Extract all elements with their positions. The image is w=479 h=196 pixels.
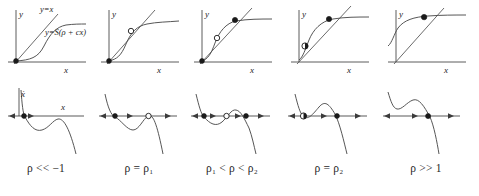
xdot-curve: [21, 90, 76, 154]
panel-top-3: y x: [186, 2, 278, 78]
fixed-point-semistable: [146, 113, 151, 118]
identity-line-label: y=x: [39, 4, 54, 14]
flow-arrow-right: [9, 113, 15, 119]
xdot-curve: [196, 94, 256, 154]
flow-arrow-left: [28, 113, 34, 119]
identity-line: [14, 14, 58, 64]
caption-column-1: ρ << −1: [0, 162, 92, 174]
panel-top-1: y x y=x y=S(ρ + cx): [0, 2, 92, 78]
caption-column-4: ρ = ρ₂: [283, 162, 375, 174]
caption-column-2: ρ = ρ₁: [93, 162, 185, 174]
y-axis-label: y: [204, 9, 209, 19]
flow-arrow-left: [355, 113, 361, 119]
figure-column-2: y x ρ = ρ₁: [93, 0, 185, 196]
fixed-point-stable: [22, 114, 27, 119]
flow-arrow-left: [448, 113, 454, 119]
flow-arrow-right: [289, 113, 295, 119]
x-axis-label: x: [156, 65, 161, 75]
fixed-point-stable: [335, 114, 340, 119]
flow-arrow-right: [100, 113, 106, 119]
panel-top-5: y x: [380, 2, 472, 78]
y-axis-label: y: [398, 9, 403, 19]
flow-arrow-left: [127, 113, 133, 119]
panel-bottom-1: ẋ x: [0, 86, 92, 158]
flow-arrow-right: [192, 113, 198, 119]
x-axis-label: x: [443, 65, 448, 75]
x-axis-label: x: [249, 65, 254, 75]
sigmoid-curve: [202, 19, 272, 61]
fixed-point-stable-upper: [232, 17, 237, 22]
sigmoid-curve-label: y=S(ρ + cx): [44, 27, 86, 37]
flow-arrow-left: [210, 113, 216, 119]
y-axis-label: y: [18, 9, 23, 19]
fixed-point-semistable: [300, 113, 306, 119]
fixed-point-stable-upper: [326, 16, 331, 21]
panel-bottom-2: [93, 86, 185, 158]
flow-arrow-right: [384, 113, 390, 119]
x-axis-label: x: [63, 65, 68, 75]
fixed-point-stable: [113, 114, 118, 119]
fixed-point-unstable: [214, 35, 219, 40]
flow-arrow-right: [258, 113, 264, 119]
caption-column-3: ρ₁ < ρ < ρ₂: [186, 162, 278, 174]
flow-arrow-right: [165, 113, 171, 119]
figure-column-1: y x y=x y=S(ρ + cx) ẋ x ρ <<: [0, 0, 92, 196]
fixed-point-stable-upper: [244, 114, 249, 119]
panel-bottom-4: [283, 86, 375, 158]
sigmoid-curve: [388, 15, 466, 46]
fixed-point-stable: [107, 59, 112, 64]
figure-column-3: y x ρ₁ < ρ < ρ₂: [186, 0, 278, 196]
panel-top-4: y x: [283, 2, 375, 78]
bifurcation-figure: y x y=x y=S(ρ + cx) ẋ x ρ <<: [0, 0, 479, 196]
xdot-curve: [295, 94, 347, 154]
figure-column-4: y x ρ = ρ₂: [283, 0, 375, 196]
fixed-point-stable: [421, 14, 426, 19]
fixed-point-semistable: [128, 28, 133, 33]
fixed-point-unstable: [224, 113, 229, 118]
fixed-point-stable: [200, 59, 205, 64]
caption-column-5: ρ >> 1: [380, 162, 472, 174]
sigmoid-curve: [299, 17, 369, 60]
xdot-curve: [105, 94, 163, 154]
xdot-curve: [388, 92, 439, 154]
panel-top-2: y x: [93, 2, 185, 78]
fixed-point-semistable: [302, 43, 308, 49]
x-axis-label: x: [346, 65, 351, 75]
panel-bottom-3: [186, 86, 278, 158]
sigmoid-curve: [109, 21, 179, 61]
xdot-axis-label: ẋ: [20, 89, 25, 99]
fixed-point-stable: [426, 114, 431, 119]
flow-arrow-left: [235, 113, 241, 119]
figure-column-5: y x ρ >> 1: [380, 0, 472, 196]
flow-arrow-right: [321, 113, 327, 119]
panel-bottom-5: [380, 86, 472, 158]
fixed-point-stable: [14, 59, 19, 64]
x-axis-label: x: [60, 102, 65, 112]
fixed-point-stable: [202, 114, 207, 119]
y-axis-label: y: [301, 9, 306, 19]
flow-arrow-right: [412, 113, 418, 119]
y-axis-label: y: [111, 9, 116, 19]
